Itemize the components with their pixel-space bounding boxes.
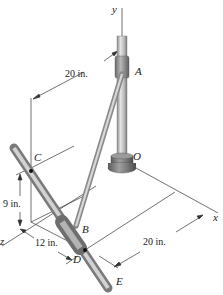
point-c-dot xyxy=(29,169,33,173)
reference-lines xyxy=(2,8,218,268)
point-label-o: O xyxy=(133,151,141,162)
rod-ab xyxy=(76,74,122,226)
point-label-d: D xyxy=(73,254,81,265)
dimension-top-20in: 20 in. xyxy=(65,69,88,79)
axis-label-z: z xyxy=(0,236,4,247)
diagram-canvas xyxy=(0,0,223,295)
dimension-12in: 12 in. xyxy=(35,238,58,248)
point-d-dot xyxy=(83,248,87,252)
point-label-c: C xyxy=(34,152,41,163)
point-label-b: B xyxy=(82,224,89,235)
axis-label-y: y xyxy=(112,4,117,15)
axis-label-x: x xyxy=(213,212,218,223)
point-label-a: A xyxy=(135,66,142,77)
dimension-9in: 9 in. xyxy=(3,199,21,209)
dimension-bottom-20in: 20 in. xyxy=(143,237,166,247)
point-label-e: E xyxy=(116,276,123,287)
